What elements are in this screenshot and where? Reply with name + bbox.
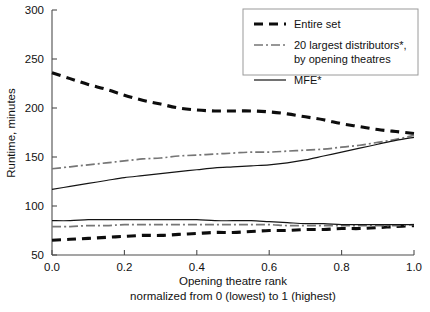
y-tick-label: 250 (25, 53, 44, 65)
x-axis-title-line1: Opening theatre rank (179, 275, 287, 287)
chart-figure: 50100150200250300 Runtime, minutes 0.00.… (0, 0, 430, 312)
y-tick-label: 50 (31, 249, 44, 261)
legend-label-1: 20 largest distributors*, (294, 39, 407, 51)
data-series-group (52, 73, 414, 241)
legend-label-1-line2: by opening theatres (294, 53, 391, 65)
series-line-solid-lower (52, 220, 414, 225)
x-tick-marks (52, 250, 414, 255)
x-tick-label: 0.6 (261, 261, 277, 273)
y-tick-label: 150 (25, 151, 44, 163)
y-tick-marks (52, 10, 57, 255)
legend-label-2: MFE* (294, 74, 322, 86)
legend-label-0: Entire set (294, 18, 340, 30)
x-tick-label: 0.8 (334, 261, 350, 273)
x-tick-label: 0.2 (116, 261, 132, 273)
y-axis-title: Runtime, minutes (5, 88, 17, 178)
x-tick-labels: 0.00.20.40.60.81.0 (44, 261, 422, 273)
runtime-vs-opening-theatre-rank-chart: 50100150200250300 Runtime, minutes 0.00.… (0, 0, 430, 312)
y-tick-label: 200 (25, 102, 44, 114)
y-tick-label: 300 (25, 4, 44, 16)
series-line-dashed-upper (52, 73, 414, 134)
y-axis-group: 50100150200250300 Runtime, minutes (5, 4, 57, 261)
series-line-dash-dot-upper (52, 135, 414, 168)
x-tick-label: 0.0 (44, 261, 60, 273)
x-axis-title-line2: normalized from 0 (lowest) to 1 (highest… (130, 290, 336, 302)
y-tick-label: 100 (25, 200, 44, 212)
x-tick-label: 1.0 (406, 261, 422, 273)
x-tick-label: 0.4 (189, 261, 206, 273)
y-tick-labels: 50100150200250300 (25, 4, 44, 261)
legend: Entire set20 largest distributors*,by op… (243, 9, 418, 86)
series-line-dashed-lower (52, 226, 414, 241)
x-axis-group: 0.00.20.40.60.81.0 Opening theatre rank … (44, 250, 422, 302)
